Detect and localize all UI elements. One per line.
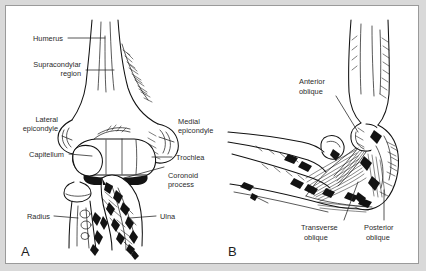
label-capitellum: Capitellum	[29, 150, 64, 159]
panel-b-illustration	[228, 20, 399, 212]
label-supracondylar-line2: region	[60, 69, 81, 78]
label-transverse-oblique-line1: Transverse	[301, 223, 338, 232]
label-anterior-oblique-line2: oblique	[299, 87, 323, 96]
label-trochlea: Trochlea	[176, 153, 205, 162]
label-medial-epicondyle-line2: epicondyle	[178, 126, 213, 135]
figure-frame: Humerus Supracondylar region Lateral epi…	[5, 5, 419, 264]
label-lateral-epicondyle-line2: epicondyle	[23, 124, 58, 133]
leader-transverse-oblique	[344, 182, 358, 220]
label-transverse-oblique-line2: oblique	[304, 233, 328, 242]
label-posterior-oblique-line1: Posterior	[364, 223, 394, 232]
panel-letter-a: A	[21, 244, 30, 259]
label-supracondylar-line1: Supracondylar	[33, 60, 81, 69]
figure-canvas: Humerus Supracondylar region Lateral epi…	[6, 6, 418, 263]
panel-letter-b: B	[228, 244, 237, 259]
label-posterior-oblique-line2: oblique	[366, 233, 390, 242]
label-medial-epicondyle-line1: Medial	[178, 117, 200, 126]
label-anterior-oblique-line1: Anterior	[299, 77, 325, 86]
label-coronoid-line1: Coronoid	[168, 171, 198, 180]
label-radius: Radius	[27, 212, 50, 221]
leader-radius	[54, 216, 78, 218]
label-humerus: Humerus	[33, 34, 63, 43]
label-lateral-epicondyle-line1: Lateral	[35, 115, 58, 124]
panel-a-illustration	[58, 20, 178, 260]
label-coronoid-line2: process	[168, 180, 194, 189]
label-ulna: Ulna	[160, 212, 176, 221]
